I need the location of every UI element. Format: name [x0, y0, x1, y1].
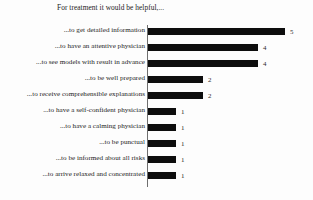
- bar-value-label: 1: [181, 123, 184, 133]
- bar-category-label: ...to be punctual: [13, 138, 145, 147]
- bar-row: ...to be punctual 1: [0, 136, 313, 152]
- bar-row: ...to be well prepared 2: [0, 72, 313, 88]
- bar-value-label: 4: [263, 43, 266, 53]
- bar-category-label: ...to have a self-confident physician: [13, 106, 145, 115]
- bar-category-label: ...to see models with result in advance: [13, 58, 145, 67]
- bar-category-label: ...to have an attentive physician: [13, 42, 145, 51]
- bar-value-label: 5: [290, 27, 293, 37]
- bar-row: ...to have a self-confident physician 1: [0, 104, 313, 120]
- bar-row: ...to have an attentive physician 4: [0, 40, 313, 56]
- bar-value-label: 1: [181, 107, 184, 117]
- bar-row: ...to have a calming physician 1: [0, 120, 313, 136]
- bar-category-label: ...to receive comprehensible explanation…: [13, 90, 145, 99]
- bar-value-label: 4: [263, 59, 266, 69]
- bar-rect: [148, 156, 176, 163]
- bar-rect: [148, 108, 176, 115]
- bar-rect: [148, 140, 176, 147]
- bar-rect: [148, 28, 285, 35]
- bar-value-label: 1: [181, 171, 184, 181]
- bar-rect: [148, 76, 203, 83]
- bar-rect: [148, 124, 176, 131]
- bar-category-label: ...to have a calming physician: [13, 122, 145, 131]
- bar-rect: [148, 92, 203, 99]
- bar-row: ...to get detailed information 5: [0, 24, 313, 40]
- horizontal-bar-chart: For treatment it would be helpful,... ..…: [0, 0, 313, 200]
- bar-rect: [148, 44, 258, 51]
- bar-row: ...to be informed about all risks 1: [0, 152, 313, 168]
- bar-value-label: 1: [181, 155, 184, 165]
- bar-rect: [148, 172, 176, 179]
- bar-category-label: ...to get detailed information: [13, 26, 145, 35]
- bar-row: ...to receive comprehensible explanation…: [0, 88, 313, 104]
- bar-row: ...to see models with result in advance …: [0, 56, 313, 72]
- bar-category-label: ...to be well prepared: [13, 74, 145, 83]
- bar-row: ...to arrive relaxed and concentrated 1: [0, 168, 313, 184]
- plot-area: ...to get detailed information 5 ...to h…: [0, 24, 313, 188]
- bar-category-label: ...to be informed about all risks: [13, 154, 145, 163]
- bar-value-label: 2: [208, 91, 211, 101]
- bar-rect: [148, 60, 258, 67]
- bar-value-label: 1: [181, 139, 184, 149]
- bar-value-label: 2: [208, 75, 211, 85]
- bar-category-label: ...to arrive relaxed and concentrated: [13, 170, 145, 179]
- chart-title: For treatment it would be helpful,...: [57, 3, 164, 13]
